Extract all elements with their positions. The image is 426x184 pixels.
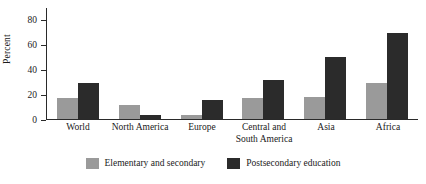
bar[interactable] [242, 98, 263, 119]
x-axis-label: Europe [171, 122, 233, 134]
bar-group [366, 8, 408, 119]
x-axis-label: Asia [295, 122, 357, 134]
legend-item[interactable]: Elementary and secondary [86, 158, 206, 169]
y-tick: 20 [41, 95, 46, 96]
chart-legend: Elementary and secondaryPostsecondary ed… [0, 158, 426, 169]
bar-group [242, 8, 284, 119]
bar[interactable] [119, 105, 140, 119]
x-axis-label: Central and South America [233, 122, 295, 145]
bar-group [57, 8, 99, 119]
x-axis-line [46, 119, 418, 120]
legend-label: Postsecondary education [246, 159, 340, 169]
x-axis-category-labels: WorldNorth AmericaEuropeCentral and Sout… [47, 122, 419, 150]
bar[interactable] [263, 80, 284, 119]
legend-swatch-icon [86, 158, 99, 169]
x-axis-label: North America [109, 122, 171, 134]
plot-area: 020406080 [46, 8, 418, 120]
legend-item[interactable]: Postsecondary education [227, 158, 340, 169]
bar[interactable] [366, 83, 387, 119]
x-axis-label: Africa [357, 122, 419, 134]
y-axis-title: Percent [2, 34, 12, 64]
x-axis-label: World [47, 122, 109, 134]
legend-label: Elementary and secondary [105, 159, 206, 169]
bar[interactable] [325, 57, 346, 119]
bar[interactable] [57, 98, 78, 119]
y-tick-label: 0 [32, 116, 37, 126]
bar[interactable] [202, 100, 223, 119]
bar-groups [47, 8, 418, 119]
bar[interactable] [181, 115, 202, 119]
y-tick-label: 60 [28, 41, 38, 51]
legend-swatch-icon [227, 158, 240, 169]
y-tick-label: 20 [28, 91, 38, 101]
bar[interactable] [304, 97, 325, 119]
bar-chart: Percent 020406080 WorldNorth AmericaEuro… [0, 0, 426, 184]
bar[interactable] [140, 115, 161, 119]
bar[interactable] [387, 33, 408, 119]
y-tick-label: 40 [28, 66, 38, 76]
y-tick: 80 [41, 20, 46, 21]
y-tick-label: 80 [28, 16, 38, 26]
y-tick: 60 [41, 45, 46, 46]
bar-group [304, 8, 346, 119]
y-tick: 40 [41, 70, 46, 71]
bar-group [181, 8, 223, 119]
bar-group [119, 8, 161, 119]
bar[interactable] [78, 83, 99, 119]
y-tick: 0 [41, 120, 46, 121]
